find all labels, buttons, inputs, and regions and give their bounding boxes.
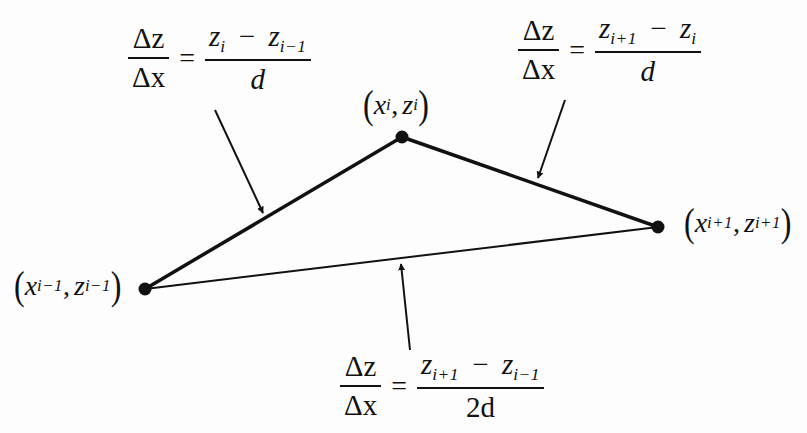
close-paren: ): [781, 199, 792, 245]
rhs-numerator: zi+1 − zi−1: [417, 348, 544, 387]
var-z: z: [502, 348, 513, 380]
close-paren: ): [418, 81, 429, 127]
point-label-next: ( xi+1, zi+1 ): [684, 204, 791, 241]
rhs-denominator: d: [636, 53, 659, 88]
point-label-prev: ( xi−1, zi−1 ): [14, 267, 121, 304]
var-z: z: [268, 20, 279, 52]
subscript: i−1: [37, 276, 63, 296]
point-next-dot: [652, 221, 665, 234]
lhs-denominator: Δx: [518, 51, 559, 86]
open-paren: (: [14, 262, 25, 308]
var-z: z: [744, 207, 755, 239]
var-z: z: [680, 12, 691, 44]
var-z: z: [599, 12, 610, 44]
rhs-denominator: 2d: [462, 389, 499, 424]
minus-sign: −: [239, 20, 255, 52]
var-x: x: [695, 207, 707, 239]
lhs-numerator: Δz: [519, 14, 559, 49]
point-prev-dot: [139, 283, 152, 296]
rhs-numerator: zi+1 − zi: [595, 12, 701, 51]
rhs-denominator: d: [246, 61, 269, 96]
diagram-canvas: Δz Δx = zi − zi−1 d Δz Δx = zi+1 − zi: [0, 0, 807, 433]
var-x: x: [374, 89, 386, 121]
lhs-denominator: Δx: [340, 387, 381, 422]
arrow-to-forward-segment: [538, 100, 565, 178]
minus-sign: −: [472, 348, 488, 380]
rhs-fraction: zi+1 − zi d: [595, 12, 701, 88]
forward-difference-formula: Δz Δx = zi+1 − zi d: [518, 12, 701, 88]
rhs-fraction: zi+1 − zi−1 2d: [417, 348, 544, 424]
var-z: z: [402, 89, 413, 121]
comma: ,: [63, 270, 70, 302]
point-curr-dot: [396, 131, 409, 144]
open-paren: (: [684, 199, 695, 245]
rhs-numerator: zi − zi−1: [205, 20, 311, 59]
comma: ,: [733, 207, 740, 239]
lhs-fraction: Δz Δx: [340, 350, 381, 422]
lhs-fraction: Δz Δx: [518, 14, 559, 86]
arrow-to-central-segment: [401, 264, 410, 350]
subscript: i+1: [755, 213, 781, 233]
backward-difference-segment: [145, 137, 402, 289]
comma: ,: [391, 89, 398, 121]
subscript: i+1: [610, 28, 637, 48]
denominator-text: 2d: [466, 391, 495, 423]
lhs-numerator: Δz: [129, 22, 169, 57]
var-x: x: [25, 270, 37, 302]
subscript: i: [691, 28, 696, 48]
arrow-to-backward-segment: [215, 110, 263, 213]
forward-difference-segment: [402, 137, 658, 227]
var-z: z: [421, 348, 432, 380]
minus-sign: −: [650, 12, 666, 44]
subscript: i+1: [432, 364, 459, 384]
var-z: z: [209, 20, 220, 52]
central-difference-segment: [145, 227, 658, 289]
equals-sign: =: [179, 42, 195, 74]
central-difference-formula: Δz Δx = zi+1 − zi−1 2d: [340, 348, 544, 424]
equals-sign: =: [391, 370, 407, 402]
backward-difference-formula: Δz Δx = zi − zi−1 d: [128, 20, 311, 96]
var-z: z: [74, 270, 85, 302]
open-paren: (: [363, 81, 374, 127]
subscript: i−1: [85, 276, 111, 296]
subscript: i: [220, 36, 225, 56]
rhs-fraction: zi − zi−1 d: [205, 20, 311, 96]
point-label-curr: ( xi, zi ): [363, 86, 429, 123]
subscript: i−1: [513, 364, 540, 384]
subscript: i+1: [707, 213, 733, 233]
subscript: i−1: [280, 36, 307, 56]
equals-sign: =: [569, 34, 585, 66]
lhs-denominator: Δx: [128, 59, 169, 94]
close-paren: ): [111, 262, 122, 308]
lhs-fraction: Δz Δx: [128, 22, 169, 94]
lhs-numerator: Δz: [341, 350, 381, 385]
